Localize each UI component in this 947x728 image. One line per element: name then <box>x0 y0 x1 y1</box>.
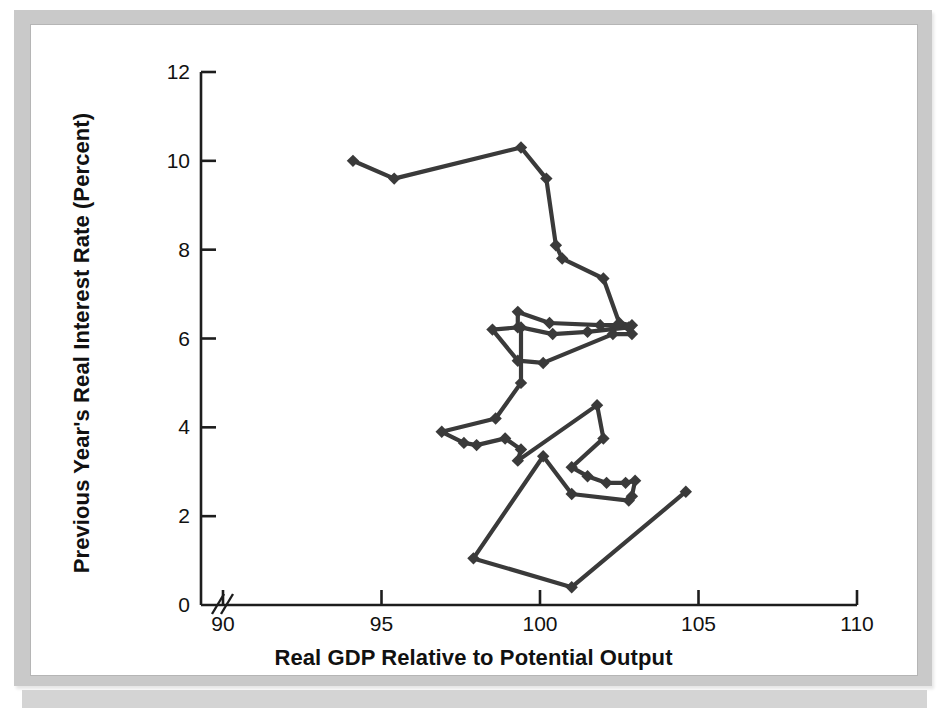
x-tick-label: 105 <box>681 612 716 636</box>
data-point-marker <box>470 439 482 451</box>
x-tick-label: 100 <box>522 612 557 636</box>
x-tick-label: 90 <box>211 612 234 636</box>
axis-layer <box>201 72 857 614</box>
scatter-line-chart <box>0 0 947 728</box>
y-tick-label: 4 <box>178 415 190 439</box>
x-tick-label: 110 <box>840 612 873 636</box>
y-tick-label: 10 <box>167 149 190 173</box>
y-tick-label: 0 <box>178 593 190 617</box>
data-point-marker <box>512 306 524 318</box>
data-point-marker <box>388 172 400 184</box>
data-point-marker <box>619 477 631 489</box>
x-tick-label: 95 <box>370 612 393 636</box>
x-axis-title: Real GDP Relative to Potential Output <box>0 645 947 671</box>
data-point-marker <box>600 477 612 489</box>
y-tick-label: 12 <box>167 60 190 84</box>
data-point-marker <box>546 328 558 340</box>
data-point-marker <box>347 155 359 167</box>
y-axis-ticks <box>201 72 216 516</box>
y-tick-label: 2 <box>178 504 190 528</box>
y-tick-label: 6 <box>178 327 190 351</box>
chart-canvas: Real GDP Relative to Potential Output Pr… <box>0 0 947 728</box>
x-axis-ticks <box>223 590 857 605</box>
series-line-path <box>353 148 686 588</box>
y-tick-label: 8 <box>178 238 190 262</box>
data-point-marker <box>543 317 555 329</box>
data-point-marker <box>581 326 593 338</box>
y-axis-title: Previous Year's Real Interest Rate (Perc… <box>69 63 95 623</box>
figure-page: Real GDP Relative to Potential Output Pr… <box>0 0 947 728</box>
series-layer <box>347 141 692 593</box>
data-point-marker <box>537 357 549 369</box>
data-point-marker <box>629 474 641 486</box>
